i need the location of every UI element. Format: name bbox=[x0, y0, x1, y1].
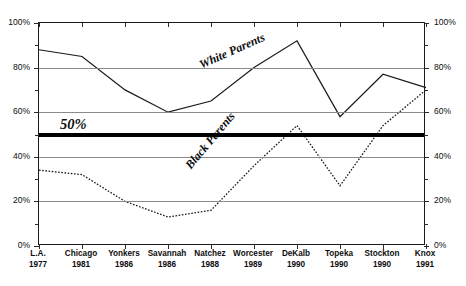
x-label-city: Natchez bbox=[194, 249, 225, 260]
x-label-year: 1990 bbox=[325, 260, 353, 271]
y-tick bbox=[424, 68, 429, 69]
x-tick bbox=[125, 23, 126, 27]
x-tick bbox=[82, 23, 83, 27]
y-minor-tick bbox=[35, 90, 39, 91]
x-axis-labels: L.A.1977Chicago1981Yonkers1986Savannah19… bbox=[0, 249, 466, 281]
chart-container: 0%20%40%60%80%100% 0%20%40%60%80%100% L.… bbox=[0, 0, 466, 286]
y-minor-tick bbox=[424, 224, 428, 225]
y-axis-tick-label: 80% bbox=[434, 63, 451, 72]
y-minor-tick bbox=[35, 45, 39, 46]
x-tick bbox=[383, 23, 384, 27]
y-tick bbox=[424, 112, 429, 113]
y-tick bbox=[34, 201, 39, 202]
x-tick bbox=[297, 23, 298, 27]
x-label-city: Yonkers bbox=[108, 249, 140, 260]
x-axis-tick-label: Topeka1990 bbox=[325, 249, 353, 270]
x-tick bbox=[426, 23, 427, 27]
y-minor-tick bbox=[35, 179, 39, 180]
y-axis-tick-label: 60% bbox=[13, 107, 30, 116]
x-label-year: 1981 bbox=[65, 260, 97, 271]
x-label-city: Savannah bbox=[148, 249, 187, 260]
y-tick bbox=[424, 157, 429, 158]
fifty-percent-threshold-line bbox=[39, 133, 424, 137]
y-minor-tick bbox=[424, 135, 428, 136]
gridline bbox=[39, 68, 424, 69]
x-axis-tick-label: Natchez1988 bbox=[194, 249, 225, 270]
series-line-black-parents bbox=[39, 90, 426, 217]
x-axis-tick-label: Worcester1989 bbox=[233, 249, 273, 270]
y-axis-tick-label: 100% bbox=[434, 18, 456, 27]
x-label-city: DeKalb bbox=[282, 249, 310, 260]
x-label-year: 1986 bbox=[108, 260, 140, 271]
x-label-year: 1990 bbox=[364, 260, 399, 271]
x-tick bbox=[168, 23, 169, 27]
x-label-city: Topeka bbox=[325, 249, 353, 260]
x-axis-tick-label: Chicago1981 bbox=[65, 249, 97, 270]
x-label-city: Chicago bbox=[65, 249, 97, 260]
x-tick bbox=[39, 23, 40, 27]
x-label-year: 1991 bbox=[415, 260, 435, 271]
y-tick bbox=[424, 201, 429, 202]
y-axis-tick-label: 20% bbox=[434, 196, 451, 205]
x-label-year: 1989 bbox=[233, 260, 273, 271]
y-axis-tick-label: 60% bbox=[434, 107, 451, 116]
y-axis-tick-label: 80% bbox=[13, 63, 30, 72]
x-label-year: 1986 bbox=[148, 260, 187, 271]
y-axis-tick-label: 40% bbox=[13, 152, 30, 161]
x-axis-tick-label: L.A.1977 bbox=[29, 249, 47, 270]
x-axis-tick-label: Yonkers1986 bbox=[108, 249, 140, 270]
y-axis-right: 0%20%40%60%80%100% bbox=[430, 0, 466, 286]
x-tick bbox=[254, 23, 255, 27]
fifty-percent-label: 50% bbox=[60, 116, 87, 133]
y-minor-tick bbox=[35, 224, 39, 225]
x-label-year: 1990 bbox=[282, 260, 310, 271]
x-label-city: L.A. bbox=[29, 249, 47, 260]
x-label-city: Knox bbox=[415, 249, 435, 260]
gridline bbox=[39, 201, 424, 202]
x-tick bbox=[340, 23, 341, 27]
y-axis-tick-label: 40% bbox=[434, 152, 451, 161]
y-tick bbox=[34, 68, 39, 69]
x-axis-tick-label: Knox1991 bbox=[415, 249, 435, 270]
y-tick bbox=[34, 157, 39, 158]
y-axis-left: 0%20%40%60%80%100% bbox=[0, 0, 34, 286]
x-label-year: 1988 bbox=[194, 260, 225, 271]
y-minor-tick bbox=[424, 179, 428, 180]
y-minor-tick bbox=[424, 45, 428, 46]
x-tick bbox=[211, 23, 212, 27]
x-axis-tick-label: Savannah1986 bbox=[148, 249, 187, 270]
gridline bbox=[39, 157, 424, 158]
x-label-year: 1977 bbox=[29, 260, 47, 271]
y-axis-tick-label: 100% bbox=[8, 18, 30, 27]
x-label-city: Worcester bbox=[233, 249, 273, 260]
y-axis-tick-label: 20% bbox=[13, 196, 30, 205]
y-tick bbox=[34, 112, 39, 113]
x-axis-tick-label: Stockton1990 bbox=[364, 249, 399, 270]
x-axis-tick-label: DeKalb1990 bbox=[282, 249, 310, 270]
x-label-city: Stockton bbox=[364, 249, 399, 260]
y-minor-tick bbox=[424, 90, 428, 91]
